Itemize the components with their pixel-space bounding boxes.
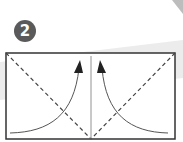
- step-number-badge: 2: [14, 20, 36, 42]
- paper-sheet: [6, 53, 175, 139]
- corner-triangle: [172, 0, 183, 14]
